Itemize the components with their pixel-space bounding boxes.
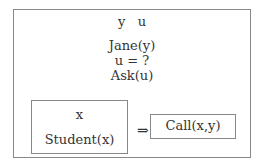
main-drs-box: y u Jane(y) u = ? Ask(u) x Student(x) ⇒ …	[13, 9, 251, 158]
consequent-drs-box: Call(x,y)	[150, 114, 236, 139]
antecedent-drs-box: x Student(x)	[31, 100, 128, 154]
implication-arrow-icon: ⇒	[137, 123, 149, 137]
condition-u-unresolved: u = ?	[14, 54, 250, 68]
condition-student: Student(x)	[32, 133, 127, 147]
condition-call: Call(x,y)	[151, 119, 235, 133]
discourse-referents: y u	[14, 15, 250, 29]
condition-ask: Ask(u)	[14, 69, 250, 83]
antecedent-referents: x	[32, 108, 127, 122]
condition-jane: Jane(y)	[14, 39, 250, 53]
